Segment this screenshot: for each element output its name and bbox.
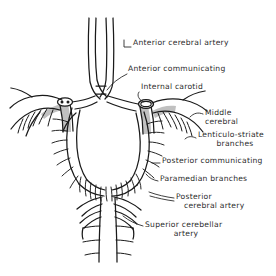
label-middle-cerebral-line2: cerebral [205,117,238,126]
pontine-left-2 [83,240,100,242]
para-2 [90,183,91,199]
aca-right-inner [100,18,107,97]
label-posterior-cerebral-line2: cerebral artery [184,201,244,210]
ring-wall-left-inner [77,110,87,180]
perf-right-3 [149,142,164,145]
label-lenticulo-striate-line1: Lenticulo-striate [198,130,272,139]
leader-paramedian-branches [146,174,158,181]
perf-right-2 [149,132,164,133]
perf-left-4 [54,149,68,154]
pca-right-upper [114,197,141,210]
pontine-right-3 [117,253,131,255]
circle-of-willis-ring [67,96,150,196]
label-superior-cerebellar-line2: artery [145,229,227,238]
perf-left-3 [52,140,67,143]
para-3 [95,185,96,200]
basilar-right-wall [115,198,117,262]
perf-left-7 [70,176,78,188]
basilar-tip-right-tick [133,228,134,239]
mca-right-branch-up [183,91,205,100]
mca-left-branch-up [11,88,32,97]
leader-anterior-cerebral-artery [124,40,131,47]
mca-left-upper-border [10,95,62,108]
a1-right-upper [108,96,138,104]
pca-left-upper [77,197,102,209]
ica-left-lumen-dot-a [61,101,64,104]
para-1 [85,180,86,196]
perf-right-4 [148,151,162,156]
a1-right-lower [107,102,136,111]
ls-right-3 [175,115,182,131]
leader-posterior-cerebral-2 [150,196,174,201]
label-paramedian-branches: Paramedian branches [160,174,247,183]
label-anterior-cerebral-artery: Anterior cerebral artery [133,38,229,47]
posterior-cerebral-arteries [77,197,141,217]
para-11 [80,177,81,192]
sca-left-upper [80,211,101,223]
leader-anterior-communicating [107,74,127,90]
para-6 [111,187,112,201]
ica-left-lumen-dot-b [67,101,70,104]
leader-lenticulo-striate [185,137,196,139]
label-internal-carotid: Internal carotid [141,82,203,91]
aca-left-outer [88,18,100,99]
leader-middle-cerebral [190,113,203,117]
label-superior-cerebellar-artery: Superior cerebellar artery [145,220,227,239]
perf-left-5 [57,158,70,165]
perf-left-2 [52,130,67,131]
pontine-left-3 [85,253,99,255]
label-lenticulo-striate-branches: Lenticulo-striate branches [198,130,272,149]
para-8 [121,183,122,198]
label-superior-cerebellar-line1: Superior cerebellar [145,220,227,229]
label-posterior-cerebral-line1: Posterior [176,192,244,201]
pontine-branches [83,226,133,255]
label-middle-cerebral-line1: Middle [205,108,238,117]
basilar-tip-left-tick [82,228,83,239]
para-5 [106,187,107,201]
label-middle-cerebral: Middle cerebral [205,108,238,127]
ring-wall-right-inner [130,113,140,181]
label-posterior-communicating: Posterior communicating [162,156,263,165]
ica-right-wall-inner [151,106,154,133]
perf-left-6 [62,167,73,176]
ring-floor-right [112,185,137,196]
basilar-artery [82,198,134,262]
pontine-right-2 [116,240,133,242]
label-lenticulo-striate-line2: branches [198,139,272,148]
figure-page: Anterior cerebral artery Anterior commun… [0,0,276,276]
label-posterior-cerebral-artery: Posterior cerebral artery [176,192,244,211]
label-anterior-communicating: Anterior communicating [128,64,225,73]
ls-right-5 [187,122,192,136]
a1-left-lower [75,102,97,109]
a1-left-upper [72,96,95,102]
basilar-left-wall [99,198,101,262]
para-10 [131,178,135,193]
perf-right-5 [146,160,159,167]
ica-right-cut-rim [141,101,151,106]
